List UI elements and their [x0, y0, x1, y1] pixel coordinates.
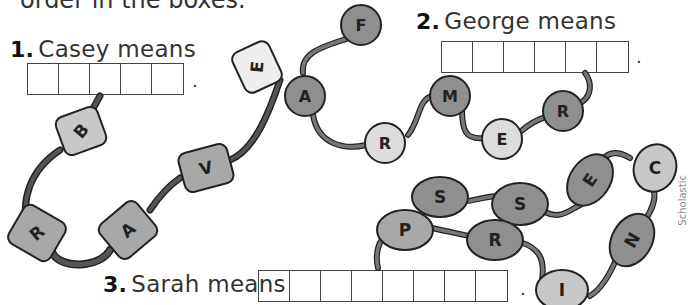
- bead-R: R: [5, 202, 69, 264]
- svg-text:E: E: [497, 130, 508, 149]
- bead-I: I: [536, 270, 588, 305]
- svg-text:E: E: [247, 60, 268, 73]
- bead-C: C: [627, 138, 679, 197]
- svg-text:P: P: [399, 220, 411, 240]
- svg-text:C: C: [649, 158, 661, 178]
- svg-text:R: R: [557, 102, 569, 121]
- bead-S: S: [412, 177, 468, 217]
- bead-P: P: [377, 210, 433, 250]
- svg-text:R: R: [379, 134, 391, 153]
- publisher-credit: Scholastic: [677, 175, 688, 226]
- bead-A: A: [285, 76, 325, 116]
- svg-text:S: S: [434, 187, 446, 207]
- svg-text:S: S: [514, 194, 526, 214]
- bead-V: V: [177, 142, 236, 194]
- bead-N: N: [601, 206, 664, 274]
- bead-R: R: [467, 220, 523, 260]
- bead-F: F: [341, 5, 381, 45]
- bead-R: R: [543, 91, 583, 131]
- svg-text:I: I: [559, 280, 565, 300]
- svg-text:F: F: [356, 16, 367, 35]
- svg-text:M: M: [442, 87, 458, 106]
- bead-M: M: [430, 76, 470, 116]
- bead-S: S: [492, 183, 548, 225]
- bead-E: E: [482, 119, 522, 159]
- svg-text:A: A: [299, 87, 312, 106]
- svg-text:R: R: [488, 230, 501, 250]
- bead-R: R: [365, 123, 405, 163]
